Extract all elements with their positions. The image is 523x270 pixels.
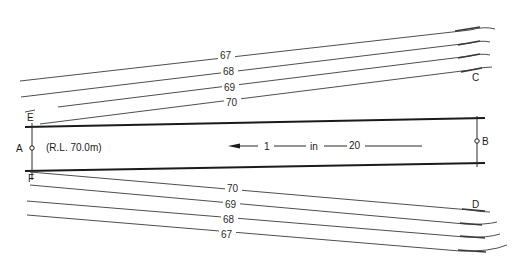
contour-bottom-69: 69 xyxy=(30,185,497,225)
contour-top-68: 68 xyxy=(21,41,490,97)
point-label-a: A xyxy=(16,143,23,154)
contour-top-69: 69 xyxy=(58,54,490,107)
point-label-b: B xyxy=(482,136,489,147)
road-top-edge xyxy=(25,118,485,127)
station-b-marker xyxy=(475,139,479,143)
gradient-word: in xyxy=(310,141,318,152)
gradient-run: 20 xyxy=(349,140,361,151)
contour-top-70: 70 xyxy=(25,67,492,124)
contour-label-top-68: 68 xyxy=(223,66,235,77)
point-label-c: C xyxy=(472,72,479,83)
contour-label-bottom-69: 69 xyxy=(225,199,237,210)
contour-label-bottom-67: 67 xyxy=(221,229,233,240)
contours-top: 67 68 69 70 xyxy=(20,27,495,124)
contours-bottom: 70 69 68 67 xyxy=(27,172,507,252)
contour-label-top-67: 67 xyxy=(220,50,232,61)
contour-label-top-70: 70 xyxy=(226,97,238,108)
contour-label-top-69: 69 xyxy=(224,82,236,93)
contour-label-bottom-70: 70 xyxy=(227,183,239,194)
gradient-arrow-icon xyxy=(228,144,240,149)
reduced-level-label: (R.L. 70.0m) xyxy=(46,142,102,153)
road-contour-diagram: 67 68 69 70 C xyxy=(0,0,523,270)
gradient-annotation: 1 in 20 xyxy=(228,140,422,152)
road-bottom-edge xyxy=(25,163,485,171)
gradient-rise: 1 xyxy=(264,141,270,152)
station-a-marker xyxy=(30,146,34,150)
point-label-f: F xyxy=(28,173,34,184)
point-label-e: E xyxy=(27,112,34,123)
contour-label-bottom-68: 68 xyxy=(223,214,235,225)
point-label-d: D xyxy=(472,199,479,210)
contour-top-67: 67 xyxy=(20,27,495,81)
